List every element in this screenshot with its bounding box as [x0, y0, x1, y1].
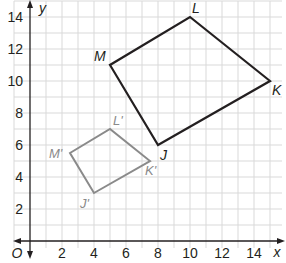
- origin-label: O: [12, 245, 23, 261]
- vertex-label-k-prime: K': [145, 163, 157, 178]
- vertex-label-j-prime: J': [79, 196, 90, 211]
- x-tick-labels: 2 4 6 8 10 12 14: [58, 245, 262, 261]
- x-axis-label: x: [273, 244, 282, 260]
- vertex-label-m-prime: M': [49, 146, 63, 161]
- x-tick: 2: [58, 245, 66, 261]
- coordinate-plane: 2 4 6 8 10 12 14 2 4 6 8 10 12 14 O x y …: [0, 0, 286, 263]
- x-tick: 14: [246, 245, 262, 261]
- vertex-label-j: J: [159, 147, 168, 163]
- vertex-label-l: L: [192, 0, 200, 16]
- y-tick: 4: [15, 169, 23, 185]
- x-tick: 6: [122, 245, 130, 261]
- y-tick-labels: 2 4 6 8 10 12 14: [7, 9, 23, 217]
- x-axis: [13, 238, 285, 244]
- x-tick: 4: [90, 245, 98, 261]
- y-tick: 12: [7, 41, 23, 57]
- y-tick: 14: [7, 9, 23, 25]
- grid: [14, 1, 282, 248]
- y-axis-down-arrow-icon: [27, 251, 33, 259]
- x-tick: 12: [214, 245, 230, 261]
- vertex-label-k: K: [272, 82, 282, 98]
- y-tick: 10: [7, 73, 23, 89]
- y-tick: 2: [15, 201, 23, 217]
- y-axis-label: y: [38, 0, 47, 16]
- x-tick: 10: [182, 245, 198, 261]
- vertex-label-l-prime: L': [113, 113, 123, 128]
- y-tick: 8: [15, 105, 23, 121]
- y-tick: 6: [15, 137, 23, 153]
- x-tick: 8: [154, 245, 162, 261]
- vertex-label-m: M: [94, 48, 106, 64]
